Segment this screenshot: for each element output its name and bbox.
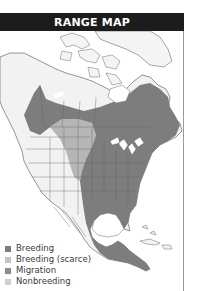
map-title: RANGE MAP xyxy=(54,16,130,29)
legend-label: Nonbreeding xyxy=(16,276,71,287)
swatch-breeding xyxy=(5,246,11,252)
legend-item-breeding-scarce: Breeding (scarce) xyxy=(5,254,91,265)
swatch-migration xyxy=(5,268,11,274)
legend-item-breeding: Breeding xyxy=(5,243,91,254)
legend-label: Breeding xyxy=(16,243,54,254)
title-bar: RANGE MAP xyxy=(0,13,184,31)
map-frame-border xyxy=(183,31,184,291)
swatch-breeding-scarce xyxy=(5,257,11,263)
legend-label: Migration xyxy=(16,265,56,276)
legend-item-nonbreeding: Nonbreeding xyxy=(5,276,91,287)
legend-label: Breeding (scarce) xyxy=(16,254,91,265)
legend-item-migration: Migration xyxy=(5,265,91,276)
caribbean-islands xyxy=(140,225,172,249)
swatch-nonbreeding xyxy=(5,279,11,285)
legend: Breeding Breeding (scarce) Migration Non… xyxy=(5,243,91,287)
